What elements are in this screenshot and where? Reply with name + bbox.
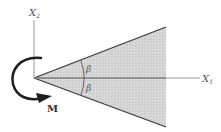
wedge-diagram: X2 X1 β β M <box>0 0 221 132</box>
moment-arrowhead-icon <box>36 93 52 103</box>
x2-axis-label: X2 <box>28 7 40 19</box>
beta-upper-label: β <box>85 64 91 74</box>
moment-label: M <box>47 103 58 114</box>
x1-axis-label: X1 <box>201 73 213 85</box>
beta-lower-label: β <box>85 83 91 93</box>
